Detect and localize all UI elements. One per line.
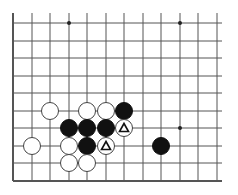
white-stone [24,138,41,155]
white-stone [79,103,96,120]
go-board [0,0,238,195]
black-stone [61,120,78,137]
black-stone [153,138,170,155]
white-stone [42,103,59,120]
black-stone [79,138,96,155]
black-stone [116,103,133,120]
white-stone [79,155,96,172]
star-point [67,21,71,25]
star-point [178,21,182,25]
black-stone [98,120,115,137]
white-stone [61,155,78,172]
white-stone [61,138,78,155]
white-stone [98,103,115,120]
star-point [178,126,182,130]
black-stone [79,120,96,137]
